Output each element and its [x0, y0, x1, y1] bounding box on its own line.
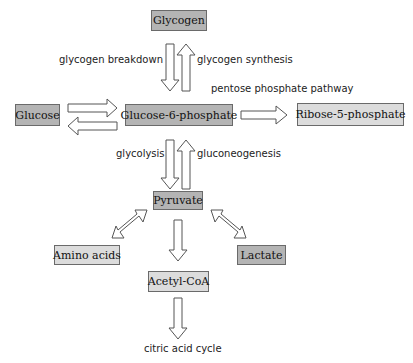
arrow-gluconeogenesis [177, 140, 195, 189]
node-glucose: Glucose [15, 104, 60, 126]
arrow-g6p-to-glucose [68, 117, 117, 135]
arrow-pyruvate-lactate [211, 210, 246, 238]
node-pyruvate: Pyruvate [153, 191, 203, 210]
label-gluconeogenesis: gluconeogenesis [197, 148, 281, 159]
node-amino-acids: Amino acids [54, 245, 120, 265]
node-glucose-6-phosphate: Glucose-6-phosphate [125, 104, 233, 126]
label-glycogen-breakdown: glycogen breakdown [59, 54, 163, 65]
label-citric-acid-cycle: citric acid cycle [144, 343, 222, 354]
node-ribose-5-phosphate: Ribose-5-phosphate [297, 103, 404, 126]
node-acetyl-coa: Acetyl-CoA [148, 271, 209, 292]
arrow-glycogen-breakdown [161, 44, 179, 91]
arrow-glycogen-synthesis [177, 44, 195, 91]
label-glycolysis: glycolysis [116, 148, 165, 159]
node-glycogen: Glycogen [151, 10, 207, 31]
arrow-pentose-phosphate [241, 106, 287, 124]
label-pentose-phosphate: pentose phosphate pathway [211, 83, 353, 94]
arrow-glucose-to-g6p [68, 99, 117, 117]
arrow-acetyl-coa-citric [169, 298, 187, 339]
label-glycogen-synthesis: glycogen synthesis [197, 54, 293, 65]
node-lactate: Lactate [237, 245, 286, 265]
arrow-pyruvate-acetyl-coa [169, 220, 187, 261]
arrow-pyruvate-amino-acids [112, 210, 147, 238]
